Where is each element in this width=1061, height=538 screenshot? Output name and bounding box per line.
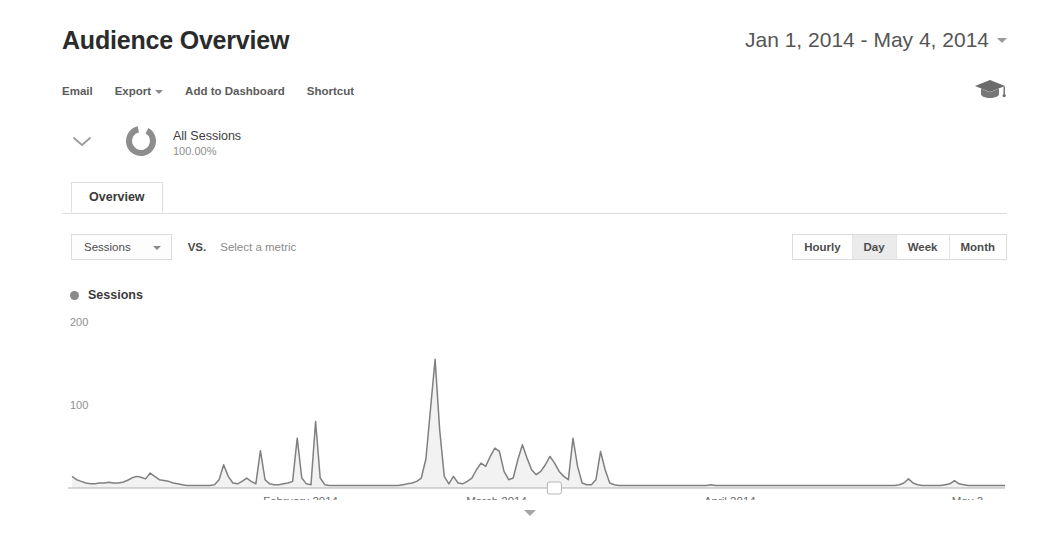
- segment-expand-chevron-down-icon[interactable]: [71, 134, 97, 152]
- export-button[interactable]: Export: [115, 85, 163, 97]
- tab-overview-label: Overview: [89, 190, 145, 204]
- metric-controls: Sessions VS. Select a metric Hourly Day …: [62, 228, 1007, 266]
- chart-legend: Sessions: [70, 288, 143, 302]
- granularity-month[interactable]: Month: [950, 235, 1006, 259]
- svg-text:100: 100: [70, 399, 88, 411]
- graduation-cap-icon[interactable]: [973, 77, 1007, 105]
- primary-metric-label: Sessions: [84, 241, 131, 253]
- legend-series-label: Sessions: [88, 288, 143, 302]
- chevron-down-icon: [155, 90, 163, 94]
- page-header: Audience Overview Jan 1, 2014 - May 4, 2…: [62, 18, 1007, 62]
- shortcut-button-label: Shortcut: [307, 85, 354, 97]
- secondary-metric-select[interactable]: Select a metric: [220, 241, 296, 253]
- action-toolbar: Email Export Add to Dashboard Shortcut: [62, 78, 1007, 104]
- email-button[interactable]: Email: [62, 85, 93, 97]
- granularity-group: Hourly Day Week Month: [792, 234, 1007, 260]
- svg-text:April 2014: April 2014: [704, 495, 756, 500]
- primary-metric-select[interactable]: Sessions: [71, 234, 172, 260]
- granularity-day[interactable]: Day: [853, 235, 897, 259]
- segment-bar: All Sessions 100.00%: [62, 112, 1007, 174]
- page-title: Audience Overview: [62, 26, 289, 55]
- segment-name: All Sessions: [173, 128, 241, 144]
- export-button-label: Export: [115, 85, 151, 97]
- granularity-hourly[interactable]: Hourly: [793, 235, 852, 259]
- svg-text:200: 200: [70, 316, 88, 328]
- date-range-label: Jan 1, 2014 - May 4, 2014: [745, 28, 989, 52]
- svg-text:May 2...: May 2...: [952, 495, 993, 500]
- granularity-week[interactable]: Week: [897, 235, 950, 259]
- legend-color-dot: [70, 291, 79, 300]
- tab-overview[interactable]: Overview: [71, 182, 163, 213]
- shortcut-button[interactable]: Shortcut: [307, 85, 354, 97]
- chevron-down-icon: [997, 38, 1007, 43]
- chart-expand-toggle[interactable]: [508, 505, 552, 521]
- svg-text:February 2014: February 2014: [263, 495, 338, 500]
- analytics-page: Audience Overview Jan 1, 2014 - May 4, 2…: [0, 0, 1061, 538]
- date-range-picker[interactable]: Jan 1, 2014 - May 4, 2014: [745, 28, 1007, 52]
- email-button-label: Email: [62, 85, 93, 97]
- add-to-dashboard-button[interactable]: Add to Dashboard: [185, 85, 285, 97]
- segment-info[interactable]: All Sessions 100.00%: [173, 128, 241, 158]
- tab-bar: Overview: [62, 182, 1007, 214]
- vs-label: VS.: [188, 241, 207, 253]
- donut-chart-icon[interactable]: [123, 123, 159, 163]
- add-to-dashboard-label: Add to Dashboard: [185, 85, 285, 97]
- chevron-down-icon: [153, 246, 161, 250]
- sessions-line-chart[interactable]: 100200February 2014March 2014April 2014M…: [62, 310, 1007, 500]
- svg-text:March 2014: March 2014: [466, 495, 527, 500]
- chevron-down-icon: [524, 510, 536, 516]
- segment-percent: 100.00%: [173, 144, 241, 158]
